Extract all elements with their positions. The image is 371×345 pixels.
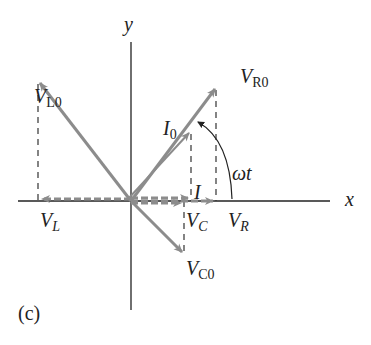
phasor-VR0 (131, 89, 215, 201)
label-VR: VR (228, 210, 249, 234)
phasor-I0 (128, 133, 189, 199)
x-axis-label: x (345, 189, 354, 209)
angle-arc (198, 122, 232, 199)
label-VR0: VR0 (240, 66, 269, 90)
label-VL: VL (40, 210, 60, 234)
label-VL0: VL0 (34, 86, 62, 110)
phasor-diagram (0, 0, 371, 345)
label-VC0: VC0 (186, 258, 215, 282)
angle-label: ωt (232, 163, 252, 183)
phasor-VC0 (131, 201, 182, 252)
y-axis-label: y (124, 14, 133, 34)
label-VC: VC (186, 210, 208, 234)
label-I0: I0 (163, 118, 177, 142)
panel-label: (c) (18, 303, 40, 323)
label-I: I (194, 182, 201, 202)
